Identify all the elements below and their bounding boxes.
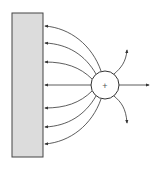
conducting-plate: [12, 13, 43, 157]
field-line-6: [45, 96, 96, 127]
field-line-5: [45, 91, 92, 108]
charge-sign: +: [102, 81, 107, 91]
field-line-7: [45, 99, 101, 144]
field-line-3: [45, 62, 92, 79]
field-line-diagram: +: [0, 0, 163, 169]
field-line-up: [114, 50, 127, 74]
field-line-2: [45, 43, 96, 74]
field-line-down: [114, 96, 127, 123]
field-line-1: [45, 26, 101, 71]
